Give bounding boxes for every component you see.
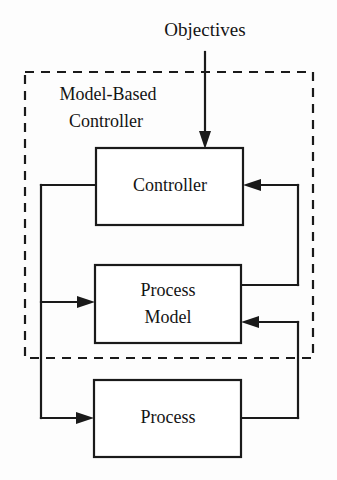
process-block-label: Process — [141, 407, 196, 427]
process-model-feedback-arrowhead-icon — [241, 316, 259, 328]
process-model-block-label-line2: Model — [145, 307, 192, 327]
block-diagram-canvas: Controller Process Model Process Objecti… — [0, 0, 337, 480]
process-model-input-arrowhead-icon — [77, 296, 95, 308]
controller-feedback-arrowhead-icon — [243, 179, 261, 191]
objectives-label: Objectives — [164, 19, 245, 40]
objectives-arrowhead-icon — [199, 131, 211, 149]
controller-block-label: Controller — [133, 175, 207, 195]
enclosure-label-line2: Controller — [69, 111, 143, 131]
process-model-block-label-line1: Process — [141, 280, 196, 300]
diagram-root: Controller Process Model Process Objecti… — [0, 0, 337, 480]
process-model-block — [95, 265, 241, 343]
enclosure-label-line1: Model-Based — [60, 84, 157, 104]
process-input-arrowhead-icon — [76, 412, 94, 424]
